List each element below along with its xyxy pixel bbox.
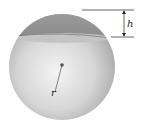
spherical-cap [0, 0, 144, 43]
center-point [60, 63, 64, 67]
sphere-diagram: r h [0, 0, 144, 125]
height-label: h [127, 18, 133, 29]
arrow-up-icon [122, 11, 126, 15]
arrow-down-icon [122, 33, 126, 37]
